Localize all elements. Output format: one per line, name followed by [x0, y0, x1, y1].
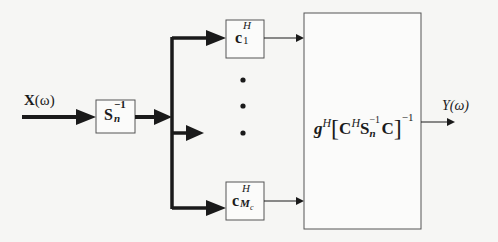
combiner-outer-sup: −1: [402, 111, 414, 123]
whitening-label: S −1 n: [104, 107, 113, 123]
combiner-S-sub: n: [369, 128, 375, 139]
input-label: X(ω): [24, 93, 55, 108]
top-to-combiner-arrow: [264, 34, 304, 42]
whitening-to-bus-arrow: [135, 109, 172, 125]
bottom-to-combiner-arrow: [264, 197, 304, 205]
combiner-C2: C: [381, 119, 393, 138]
branch-bottom-sub-c: c: [250, 203, 254, 212]
combiner-rbracket: ]: [394, 115, 402, 141]
output-label: Y(ω): [442, 99, 469, 113]
output-arrow: [421, 118, 455, 126]
branch-bottom-arrow: [172, 200, 226, 216]
ellipsis-dots: [240, 77, 245, 135]
combiner-S-sup: −1: [369, 115, 380, 125]
input-argument: (ω): [35, 92, 55, 108]
combiner-expression: gH[CHS−1nC]−1: [314, 114, 413, 138]
input-arrow: [22, 109, 96, 125]
branch-bottom-sub: Mc: [240, 198, 253, 209]
branch-bottom-sup: H: [242, 183, 250, 194]
branch-top-arrow: [172, 30, 226, 46]
combiner-C1-sup: H: [351, 116, 360, 130]
whitening-sup: −1: [114, 99, 126, 110]
combiner-C1: C: [339, 119, 351, 138]
combiner-S: S: [360, 119, 369, 138]
branch-middle-arrow: [172, 125, 204, 141]
combiner-g-sup: H: [323, 116, 332, 130]
combiner-lbracket: [: [331, 115, 339, 141]
combiner-g: g: [314, 119, 323, 138]
branch-top-main: c: [235, 29, 242, 46]
branch-bottom-main: c: [232, 192, 239, 209]
whitening-main: S: [104, 106, 113, 123]
branch-bottom-sub-M: M: [240, 197, 250, 209]
whitening-sub: n: [114, 113, 120, 124]
input-symbol: X: [24, 92, 35, 108]
branch-top-sub: 1: [243, 35, 249, 46]
branch-top-label: c H 1: [235, 30, 242, 46]
branch-top-sup: H: [243, 20, 251, 31]
branch-bottom-label: c H Mc: [232, 193, 239, 209]
